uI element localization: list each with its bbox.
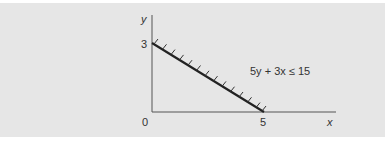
x-axis-label: x (326, 116, 333, 128)
constraint-label: 5y + 3x ≤ 15 (250, 65, 310, 77)
constraint-diagram: y 3 0 5 x 5y + 3x ≤ 15 (0, 0, 385, 142)
y-axis-label: y (140, 13, 148, 25)
constraint-line (152, 43, 264, 112)
x-tick-label: 5 (260, 116, 266, 128)
origin-label: 0 (142, 116, 148, 128)
y-tick-label: 3 (141, 38, 147, 50)
